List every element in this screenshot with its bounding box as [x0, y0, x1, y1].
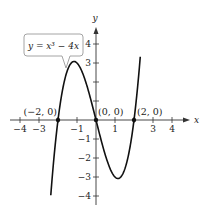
x-axis-label: x — [194, 115, 199, 125]
callout-box — [24, 34, 83, 68]
y-axis-arrow-icon — [94, 27, 99, 34]
x-tick-label: 3 — [150, 124, 156, 134]
x-axis-arrow-icon — [183, 118, 190, 123]
intercept-label: (2, 0) — [137, 106, 163, 117]
x-tick-label: 4 — [169, 124, 175, 134]
cubic-graph: xy−4−3−113443−1−2−3−4 (−2, 0)(0, 0)(2, 0… — [0, 0, 204, 213]
intercept-point — [94, 118, 98, 122]
y-axis-label: y — [91, 13, 98, 23]
intercept-point — [56, 118, 60, 122]
y-tick-label: 3 — [85, 58, 91, 68]
intercept-label: (0, 0) — [98, 106, 124, 117]
y-tick-label: −4 — [78, 191, 92, 201]
x-tick-label: −3 — [32, 124, 46, 134]
y-tick-label: −3 — [78, 172, 92, 182]
x-tick-label: −4 — [13, 124, 27, 134]
y-tick-label: −2 — [78, 153, 91, 163]
y-tick-label: 4 — [85, 39, 91, 49]
equation-label: y = x³ − 4x — [27, 41, 79, 51]
y-tick-label: −1 — [78, 134, 91, 144]
intercept-point — [132, 118, 136, 122]
intercept-label: (−2, 0) — [23, 106, 57, 117]
equation-callout: y = x³ − 4x — [24, 34, 83, 68]
x-tick-label: −1 — [70, 124, 83, 134]
x-tick-label: 1 — [112, 124, 118, 134]
curve-path — [51, 57, 140, 196]
cubic-curve — [51, 57, 140, 196]
